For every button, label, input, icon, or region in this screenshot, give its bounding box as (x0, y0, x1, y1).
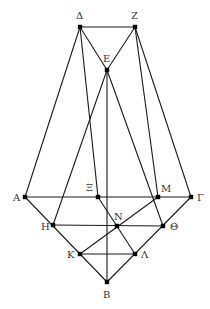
segment-delta-xi (80, 27, 98, 197)
point-k (78, 252, 82, 256)
segment-e-h (53, 70, 107, 225)
point-lambda (133, 252, 137, 256)
point-n (115, 224, 119, 228)
label-delta: Δ (76, 10, 83, 21)
point-delta (78, 25, 82, 29)
point-z (133, 25, 137, 29)
label-k: K (67, 249, 75, 260)
label-b: B (103, 289, 110, 300)
label-e: E (103, 53, 110, 64)
point-e (105, 68, 109, 72)
point-a (23, 195, 27, 199)
segment-z-m (135, 27, 158, 197)
point-gamma (189, 195, 193, 199)
label-z: Z (131, 10, 138, 21)
label-m: M (161, 183, 171, 194)
segment-h-theta (53, 225, 163, 226)
point-labels: ΔZEAΞMΓHNΘKΛB (12, 10, 204, 300)
segment-a-b (25, 197, 107, 282)
label-xi: Ξ (86, 182, 93, 193)
point-theta (161, 224, 165, 228)
label-a: A (12, 192, 21, 203)
label-gamma: Γ (197, 192, 204, 203)
label-theta: Θ (170, 221, 178, 232)
segment-z-e (107, 27, 135, 70)
label-lambda: Λ (140, 249, 149, 260)
label-n: N (114, 211, 123, 222)
point-h (51, 223, 55, 227)
segment-e-theta (107, 70, 163, 226)
point-m (156, 195, 160, 199)
point-xi (96, 195, 100, 199)
line-segments (25, 27, 191, 282)
segment-gamma-b (107, 197, 191, 282)
label-h: H (41, 221, 50, 232)
point-b (105, 280, 109, 284)
geometry-diagram: ΔZEAΞMΓHNΘKΛB (0, 0, 210, 309)
